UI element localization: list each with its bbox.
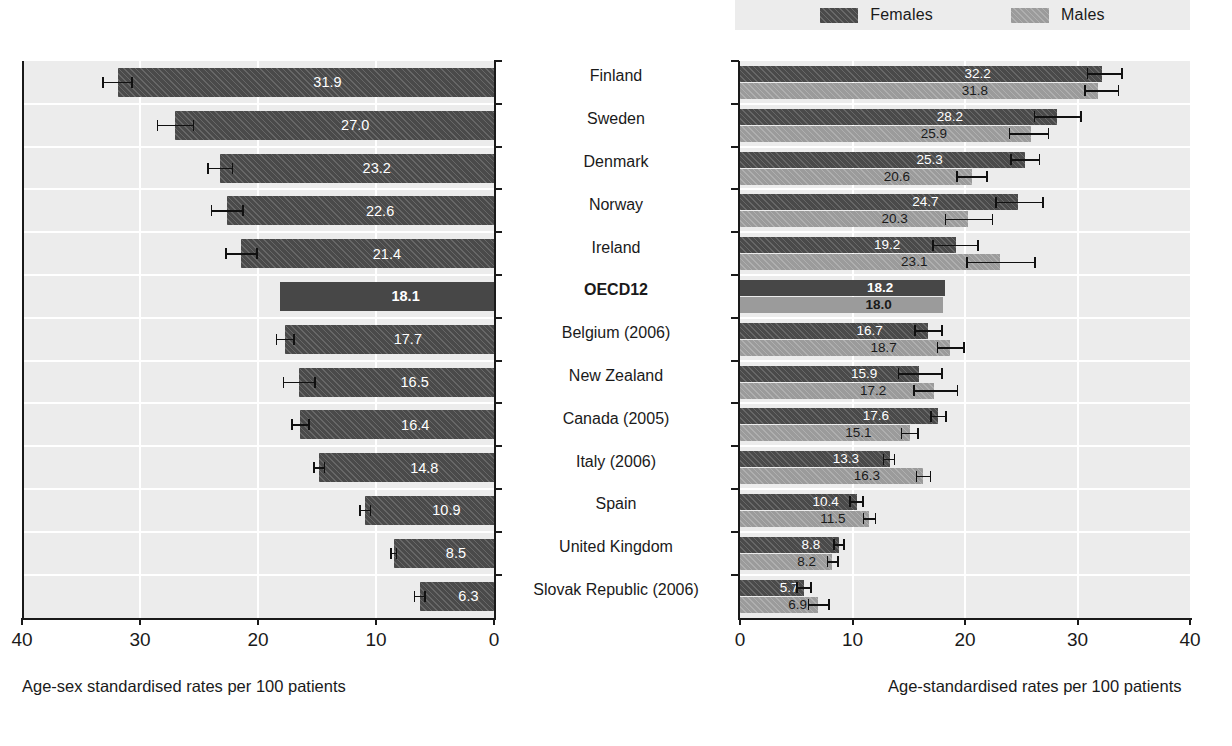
error-bar	[863, 513, 877, 524]
bar-value-label: 18.2	[867, 281, 893, 295]
row-separator	[740, 402, 1190, 404]
bar-value-label: 16.3	[854, 469, 880, 483]
bar-value-label: 24.7	[912, 195, 938, 209]
bar-value-label: 15.9	[851, 367, 877, 381]
error-bar	[1009, 128, 1050, 139]
bar-value-label: 16.5	[401, 375, 429, 390]
bar-value-label: 8.8	[801, 538, 820, 552]
bar-value-label: 17.6	[863, 409, 889, 423]
bar-female-total	[299, 368, 494, 397]
legend-item-males: Males	[1011, 6, 1105, 24]
row-separator	[22, 103, 494, 105]
bar-female	[740, 537, 839, 553]
error-bar	[1087, 68, 1123, 79]
row-separator	[22, 574, 494, 576]
right-axis-row-tick	[731, 188, 739, 190]
error-bar	[1084, 85, 1119, 96]
error-bar	[1010, 154, 1040, 165]
bar-female-total	[365, 496, 494, 525]
bar-value-label: 20.3	[882, 212, 908, 226]
gridline	[257, 61, 259, 618]
right-axis-row-tick	[731, 274, 739, 276]
bar-value-label: 15.1	[845, 426, 871, 440]
bar-female	[740, 109, 1057, 125]
bar-female	[740, 408, 938, 424]
bar-value-label: 28.2	[937, 110, 963, 124]
left-axis-tick-label: 30	[129, 629, 150, 651]
left-axis-tick	[139, 618, 141, 625]
bar-male	[740, 554, 832, 570]
bar-value-label: 22.6	[366, 204, 394, 219]
left-axis-spine-left	[22, 61, 24, 620]
right-axis-row-tick	[731, 445, 739, 447]
error-bar	[833, 539, 844, 550]
row-separator	[22, 531, 494, 533]
row-separator	[740, 531, 1190, 533]
error-bar	[276, 334, 295, 345]
bar-female-total	[319, 453, 494, 482]
bar-male	[740, 297, 943, 313]
row-separator	[740, 188, 1190, 190]
male-swatch-icon	[1011, 8, 1049, 23]
bar-value-label: 20.6	[884, 170, 910, 184]
row-separator	[22, 188, 494, 190]
country-label: Finland	[500, 68, 732, 84]
country-label: Italy (2006)	[500, 454, 732, 470]
bar-value-label: 27.0	[341, 118, 369, 133]
bar-female-total	[300, 410, 494, 439]
right-axis-tick-label: 10	[842, 629, 863, 651]
error-bar	[225, 248, 258, 259]
row-separator	[22, 360, 494, 362]
bar-female	[740, 152, 1025, 168]
error-bar	[211, 205, 244, 216]
right-axis-tick-label: 0	[735, 629, 746, 651]
bar-value-label: 21.4	[373, 247, 401, 262]
right-axis-row-tick	[731, 103, 739, 105]
right-axis-row-tick	[731, 531, 739, 533]
error-bar	[945, 214, 993, 225]
error-bar	[102, 77, 133, 88]
bar-value-label: 11.5	[820, 512, 845, 526]
bar-female	[740, 66, 1102, 82]
row-separator	[22, 402, 494, 404]
left-axis-tick-label: 0	[489, 629, 500, 651]
bar-female-total	[285, 325, 494, 354]
country-label: Canada (2005)	[500, 411, 732, 427]
error-bar	[808, 599, 831, 610]
error-bar	[313, 462, 325, 473]
right-axis-tick-label: 20	[954, 629, 975, 651]
country-label: Ireland	[500, 240, 732, 256]
country-label: Spain	[500, 496, 732, 512]
bar-value-label: 31.9	[313, 75, 341, 90]
bar-value-label: 18.7	[870, 341, 896, 355]
error-bar	[359, 505, 371, 516]
bar-value-label: 25.9	[921, 127, 947, 141]
left-axis-line	[22, 618, 496, 620]
bar-male	[740, 425, 910, 441]
error-bar	[796, 582, 812, 593]
bar-female-total	[118, 68, 494, 97]
error-bar	[916, 471, 932, 482]
bar-value-label: 13.3	[833, 452, 859, 466]
error-bar	[930, 411, 947, 422]
row-separator	[22, 231, 494, 233]
error-bar	[390, 548, 397, 559]
error-bar	[849, 496, 864, 507]
bar-male	[740, 169, 972, 185]
gridline	[139, 61, 141, 618]
bar-value-label: 6.3	[458, 589, 478, 604]
error-bar	[913, 385, 958, 396]
country-label: Slovak Republic (2006)	[500, 582, 732, 598]
bar-value-label: 16.4	[401, 418, 429, 433]
bar-value-label: 23.1	[901, 255, 927, 269]
right-axis-row-tick	[731, 360, 739, 362]
right-axis-row-tick	[731, 231, 739, 233]
row-separator	[740, 103, 1190, 105]
row-separator	[740, 317, 1190, 319]
error-bar	[956, 171, 988, 182]
bar-value-label: 31.8	[962, 84, 988, 98]
bar-female	[740, 280, 945, 296]
bar-female-total	[227, 196, 494, 225]
left-axis-tick-label: 10	[365, 629, 386, 651]
bar-female-total	[241, 239, 494, 268]
